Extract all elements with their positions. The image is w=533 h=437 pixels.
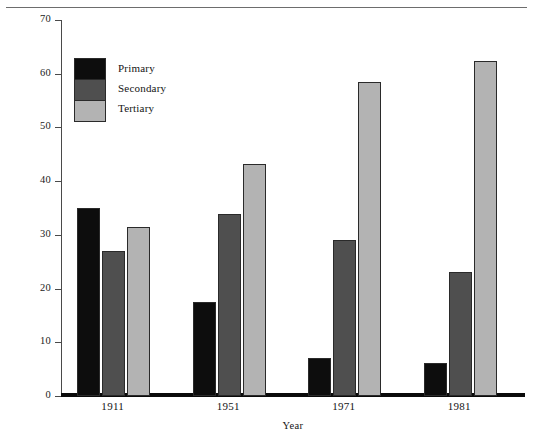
x-tick-label: 1951	[188, 400, 268, 412]
y-tick-mark	[55, 235, 61, 236]
x-axis-ticks: 1911195119711981	[61, 400, 525, 416]
bar	[102, 251, 125, 396]
bar	[77, 208, 100, 396]
y-tick-mark	[55, 127, 61, 128]
x-tick-label: 1981	[419, 400, 499, 412]
legend-label: Secondary	[118, 78, 166, 98]
y-tick-mark	[55, 74, 61, 75]
legend-swatch	[75, 101, 105, 121]
y-tick-label: 70	[5, 14, 51, 24]
x-tick-label: 1971	[304, 400, 384, 412]
y-tick-mark	[55, 342, 61, 343]
bar-group	[424, 20, 497, 396]
header-rule	[6, 7, 527, 8]
legend-swatch	[75, 59, 105, 80]
bar	[333, 240, 356, 396]
legend-labels: PrimarySecondaryTertiary	[118, 58, 166, 122]
legend: PrimarySecondaryTertiary	[74, 58, 166, 122]
bar	[127, 227, 150, 396]
legend-swatch	[75, 80, 105, 101]
bar	[449, 272, 472, 396]
legend-label: Tertiary	[118, 98, 166, 118]
y-tick-label: 30	[5, 229, 51, 239]
y-tick-label: 40	[5, 175, 51, 185]
bar	[218, 214, 241, 396]
bar	[424, 363, 447, 396]
x-axis-title: Year	[61, 420, 525, 431]
bar	[308, 358, 331, 396]
x-tick-label: 1911	[73, 400, 153, 412]
legend-label: Primary	[118, 58, 166, 78]
bar-group	[308, 20, 381, 396]
chart-figure: 010203040506070 Percent 1911195119711981…	[0, 0, 533, 437]
y-tick-mark	[55, 396, 61, 397]
y-tick-mark	[55, 289, 61, 290]
y-tick-label: 0	[5, 390, 51, 400]
y-tick-mark	[55, 181, 61, 182]
legend-swatches	[74, 58, 106, 122]
y-tick-label: 10	[5, 336, 51, 346]
bar	[243, 164, 266, 396]
bar	[358, 82, 381, 396]
y-tick-mark	[55, 20, 61, 21]
bar	[193, 302, 216, 396]
y-tick-label: 50	[5, 121, 51, 131]
y-tick-label: 60	[5, 68, 51, 78]
y-tick-label: 20	[5, 283, 51, 293]
bar-group	[193, 20, 266, 396]
bar	[474, 61, 497, 396]
